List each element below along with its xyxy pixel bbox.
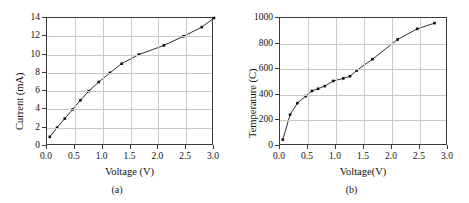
y-axis-tick-label: 0 [4, 140, 40, 150]
data-line [283, 23, 435, 139]
data-point-marker [396, 38, 399, 41]
x-axis-tick [279, 145, 280, 149]
data-point-marker [296, 102, 299, 105]
data-point-marker [64, 117, 67, 120]
x-axis-tick-label: 3.0 [199, 151, 227, 161]
y-axis-tick [275, 17, 279, 18]
data-point-marker [79, 99, 82, 102]
y-axis-tick-label: 800 [237, 38, 273, 48]
x-axis-tick-label: 1.0 [88, 151, 116, 161]
y-axis-tick [42, 127, 46, 128]
x-axis-tick-label: 0.5 [293, 151, 321, 161]
data-point-marker [371, 58, 374, 61]
gridline-horizontal [47, 73, 212, 74]
panel-b-caption: (b) [234, 184, 469, 195]
x-axis-tick [157, 145, 158, 149]
x-axis-tick [391, 145, 392, 149]
x-axis-tick [46, 145, 47, 149]
x-axis-tick-label: 2.5 [171, 151, 199, 161]
panel-a-caption: (a) [0, 184, 234, 195]
y-axis-tick-label: 1000 [237, 12, 273, 22]
gridline-vertical [131, 18, 132, 144]
data-point-marker [342, 77, 345, 80]
gridline-vertical [336, 18, 337, 144]
x-axis-tick [419, 145, 420, 149]
data-point-marker [282, 138, 285, 141]
y-axis-tick-label: 12 [4, 30, 40, 40]
x-axis-tick [185, 145, 186, 149]
x-axis-tick-label: 0.0 [32, 151, 60, 161]
gridline-horizontal [47, 109, 212, 110]
panel-b-x-axis-title: Voltage(V) [279, 166, 447, 177]
panel-a: Current (mA) 024681012140.00.51.01.52.02… [0, 0, 234, 203]
y-axis-tick-label: 400 [237, 89, 273, 99]
gridline-horizontal [47, 128, 212, 129]
data-point-marker [332, 80, 335, 83]
data-point-marker [213, 17, 216, 20]
gridline-vertical [308, 18, 309, 144]
x-axis-tick [363, 145, 364, 149]
data-point-marker [48, 136, 51, 139]
figure-container: Current (mA) 024681012140.00.51.01.52.02… [0, 0, 469, 203]
gridline-vertical [392, 18, 393, 144]
y-axis-tick-label: 10 [4, 49, 40, 59]
y-axis-tick [42, 17, 46, 18]
x-axis-tick [335, 145, 336, 149]
gridline-horizontal [280, 95, 446, 96]
y-axis-tick [42, 90, 46, 91]
x-axis-tick [130, 145, 131, 149]
data-point-marker [311, 90, 314, 93]
gridline-horizontal [280, 120, 446, 121]
x-axis-tick [307, 145, 308, 149]
y-axis-tick-label: 2 [4, 122, 40, 132]
data-point-marker [416, 28, 419, 31]
y-axis-tick-label: 14 [4, 12, 40, 22]
gridline-vertical [364, 18, 365, 144]
y-axis-tick [275, 94, 279, 95]
data-point-marker [289, 113, 292, 116]
data-point-marker [324, 85, 327, 88]
x-axis-tick-label: 2.0 [143, 151, 171, 161]
data-point-marker [97, 81, 100, 84]
y-axis-tick [42, 35, 46, 36]
gridline-horizontal [280, 44, 446, 45]
gridline-horizontal [47, 55, 212, 56]
gridline-vertical [103, 18, 104, 144]
y-axis-tick-label: 6 [4, 85, 40, 95]
x-axis-tick [213, 145, 214, 149]
x-axis-tick-label: 1.5 [116, 151, 144, 161]
data-point-marker [120, 62, 123, 65]
data-point-marker [163, 44, 166, 47]
x-axis-tick [102, 145, 103, 149]
panel-a-x-axis-title: Voltage (V) [46, 166, 213, 177]
x-axis-tick-label: 0.0 [265, 151, 293, 161]
y-axis-tick [42, 108, 46, 109]
x-axis-tick-label: 2.0 [377, 151, 405, 161]
gridline-vertical [158, 18, 159, 144]
y-axis-tick-label: 600 [237, 63, 273, 73]
x-axis-tick [447, 145, 448, 149]
panel-b-y-axis-title: Temperature (C) [247, 68, 258, 138]
data-point-marker [200, 26, 203, 29]
data-point-marker [317, 87, 320, 90]
x-axis-tick [74, 145, 75, 149]
y-axis-tick [275, 43, 279, 44]
gridline-vertical [186, 18, 187, 144]
y-axis-tick [42, 54, 46, 55]
x-axis-tick-label: 2.5 [405, 151, 433, 161]
data-point-marker [433, 22, 436, 25]
x-axis-tick-label: 1.5 [349, 151, 377, 161]
gridline-horizontal [280, 69, 446, 70]
x-axis-tick-label: 3.0 [433, 151, 461, 161]
gridline-vertical [75, 18, 76, 144]
y-axis-tick [275, 119, 279, 120]
y-axis-tick [275, 68, 279, 69]
gridline-horizontal [47, 36, 212, 37]
x-axis-tick-label: 0.5 [60, 151, 88, 161]
gridline-horizontal [47, 91, 212, 92]
panel-a-plot-area [46, 17, 213, 145]
y-axis-tick-label: 4 [4, 103, 40, 113]
y-axis-tick-label: 200 [237, 114, 273, 124]
y-axis-tick-label: 8 [4, 67, 40, 77]
y-axis-tick [42, 72, 46, 73]
